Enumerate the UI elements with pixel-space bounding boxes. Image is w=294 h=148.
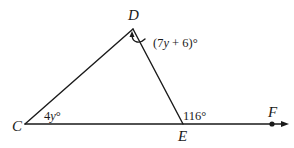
segment-cd bbox=[25, 29, 133, 124]
point-f-dot bbox=[269, 121, 274, 126]
vertex-label-c: C bbox=[12, 118, 23, 134]
vertex-label-e: E bbox=[177, 128, 187, 144]
angle-label-exterior-e: 116° bbox=[183, 109, 206, 123]
vertex-label-d: D bbox=[127, 7, 139, 23]
angle-label-c: 4y° bbox=[44, 109, 61, 123]
arrowhead-icon bbox=[281, 121, 289, 127]
angle-label-d: (7y + 6)° bbox=[153, 36, 198, 50]
vertex-label-f: F bbox=[267, 104, 278, 120]
triangle-diagram: D C E F (7y + 6)° 4y° 116° bbox=[0, 0, 294, 148]
